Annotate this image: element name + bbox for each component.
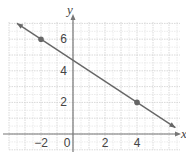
y-tick-label: 2 bbox=[60, 95, 67, 109]
coordinate-plane: −2024246 y x bbox=[0, 0, 186, 152]
x-axis-label: x bbox=[180, 126, 186, 141]
x-tick-label: 0 bbox=[64, 136, 71, 150]
data-point bbox=[134, 100, 140, 106]
x-tick-label: 2 bbox=[102, 136, 109, 150]
x-tick-label: −2 bbox=[34, 136, 48, 150]
x-tick-label: 4 bbox=[134, 136, 141, 150]
y-tick-label: 4 bbox=[60, 64, 67, 78]
tick-labels: −2024246 bbox=[34, 32, 141, 150]
grid bbox=[9, 22, 180, 150]
y-axis-label: y bbox=[65, 2, 73, 17]
axes bbox=[3, 14, 181, 152]
y-tick-label: 6 bbox=[60, 32, 67, 46]
data-point bbox=[38, 36, 44, 42]
